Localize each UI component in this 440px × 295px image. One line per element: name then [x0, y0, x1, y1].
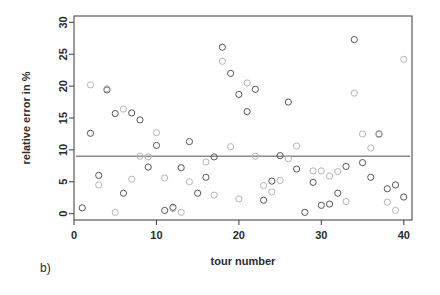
y-tick-label-10: 10 [57, 144, 69, 156]
x-tick-label-10: 10 [150, 229, 162, 241]
y-tick-label-20: 20 [57, 80, 69, 92]
scatter-plot-figure: 051015202530010203040tour numberrelative… [0, 0, 440, 295]
x-tick-label-40: 40 [398, 229, 410, 241]
y-tick-label-0: 0 [57, 211, 69, 217]
panel-label: b) [40, 261, 51, 275]
y-tick-label-30: 30 [57, 16, 69, 28]
x-tick-label-30: 30 [315, 229, 327, 241]
y-tick-label-5: 5 [57, 179, 69, 185]
x-tick-label-0: 0 [71, 229, 77, 241]
x-axis-title: tour number [211, 255, 276, 267]
x-tick-label-20: 20 [233, 229, 245, 241]
y-tick-label-15: 15 [57, 112, 69, 124]
y-tick-label-25: 25 [57, 48, 69, 60]
y-axis-title: relative error in % [20, 71, 32, 164]
